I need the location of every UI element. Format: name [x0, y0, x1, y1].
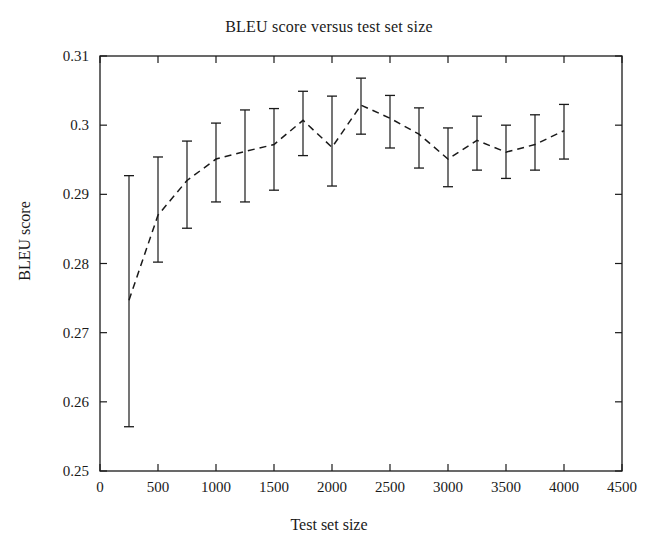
- error-bars: [124, 78, 569, 427]
- svg-text:0: 0: [96, 479, 104, 495]
- svg-text:2000: 2000: [317, 479, 347, 495]
- svg-text:0.31: 0.31: [63, 48, 89, 64]
- svg-text:1500: 1500: [259, 479, 289, 495]
- svg-text:0.25: 0.25: [63, 463, 89, 479]
- svg-text:0.29: 0.29: [63, 186, 89, 202]
- svg-text:4000: 4000: [549, 479, 579, 495]
- svg-text:4500: 4500: [607, 479, 637, 495]
- svg-text:0.27: 0.27: [63, 325, 90, 341]
- svg-text:2500: 2500: [375, 479, 405, 495]
- svg-text:1000: 1000: [201, 479, 231, 495]
- svg-text:0.28: 0.28: [63, 256, 89, 272]
- chart-figure: BLEU score versus test set size BLEU sco…: [0, 0, 658, 553]
- svg-text:3000: 3000: [433, 479, 463, 495]
- y-axis-ticks: 0.250.260.270.280.290.30.31: [63, 48, 622, 479]
- svg-text:500: 500: [147, 479, 170, 495]
- svg-text:0.26: 0.26: [63, 394, 90, 410]
- svg-text:0.3: 0.3: [70, 117, 89, 133]
- x-axis-ticks: 050010001500200025003000350040004500: [96, 56, 637, 495]
- svg-text:3500: 3500: [491, 479, 521, 495]
- data-line: [129, 105, 564, 300]
- plot-area: 050010001500200025003000350040004500 0.2…: [0, 0, 658, 553]
